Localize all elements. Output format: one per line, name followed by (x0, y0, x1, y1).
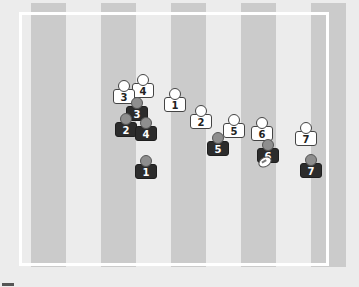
player-head-icon (212, 132, 224, 144)
attacker-7: 7 (295, 122, 317, 148)
defender-2: 2 (115, 113, 137, 139)
defender-1: 1 (135, 155, 157, 181)
player-head-icon (195, 105, 207, 117)
player-head-icon (140, 155, 152, 167)
player-head-icon (169, 88, 181, 100)
player-head-icon (137, 74, 149, 86)
player-head-icon (120, 113, 132, 125)
player-head-icon (140, 117, 152, 129)
defender-7: 7 (300, 154, 322, 180)
attacker-2: 2 (190, 105, 212, 131)
player-head-icon (118, 80, 130, 92)
player-head-icon (305, 154, 317, 166)
player-head-icon (256, 117, 268, 129)
caption-mark (2, 283, 14, 286)
player-head-icon (262, 139, 274, 151)
player-head-icon (131, 97, 143, 109)
player-head-icon (228, 114, 240, 126)
defender-5: 5 (207, 132, 229, 158)
pitch-boundary-line (19, 12, 329, 266)
defender-4: 4 (135, 117, 157, 143)
attacker-1: 1 (164, 88, 186, 114)
player-head-icon (300, 122, 312, 134)
